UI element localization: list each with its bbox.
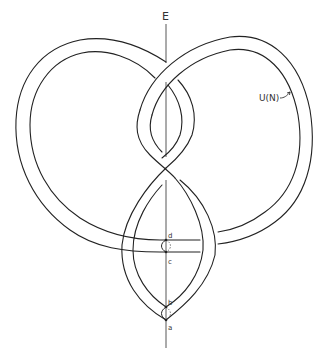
central-twist-tube: [122, 80, 216, 320]
point-label-c: c: [168, 258, 172, 266]
point-label-d: d: [168, 232, 172, 240]
point-label-b: b: [168, 299, 173, 307]
point-label-a: a: [168, 324, 172, 332]
left-lobe-tube: [16, 39, 200, 252]
axis-label-e: E: [162, 10, 169, 23]
knot-figure: E d c b a U(N): [0, 0, 323, 354]
neighborhood-label: U(N): [259, 93, 279, 103]
